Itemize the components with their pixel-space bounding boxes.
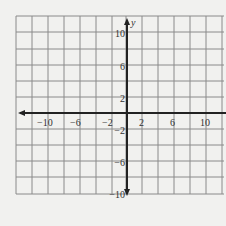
x-tick-label: −10 [37, 117, 53, 128]
y-tick-label: −10 [109, 189, 125, 200]
x-tick-label: 6 [170, 117, 175, 128]
y-tick-label: 2 [120, 93, 125, 104]
y-tick-label: 6 [120, 61, 125, 72]
x-axis-arrow-icon [18, 110, 25, 116]
x-tick-label: 10 [200, 117, 210, 128]
y-axis [124, 18, 130, 196]
x-tick-label: −6 [70, 117, 81, 128]
x-tick-label: 2 [139, 117, 144, 128]
y-tick-label: 10 [115, 28, 125, 39]
x-axis [18, 110, 226, 116]
y-tick-label: −6 [114, 157, 125, 168]
y-tick-label: −2 [114, 125, 125, 136]
y-axis-arrow-up-icon [124, 18, 130, 25]
coordinate-grid: y −10 −6 −2 2 6 10 10 6 2 −2 −6 −10 [0, 0, 226, 226]
y-axis-label: y [130, 17, 136, 28]
x-tick-label: −2 [102, 117, 113, 128]
